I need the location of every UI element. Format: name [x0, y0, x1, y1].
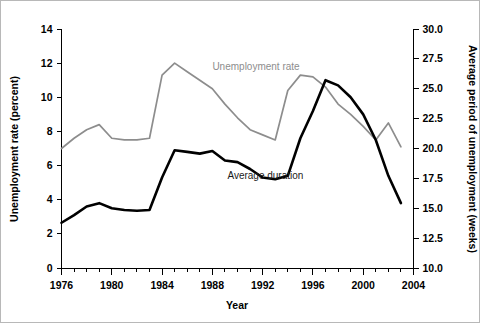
left-tick-label: 4	[47, 193, 53, 205]
left-axis-ticks: 02468101214	[41, 23, 62, 274]
x-tick-label: 1996	[301, 279, 325, 291]
x-axis-title: Year	[226, 299, 248, 311]
left-tick-label: 6	[47, 159, 53, 171]
left-tick-label: 10	[41, 91, 53, 103]
y-axis-left-title: Unemployment rate (percent)	[8, 76, 20, 222]
x-tick-label: 1980	[100, 279, 124, 291]
series-line-unemployment-rate	[62, 63, 401, 148]
right-tick-label: 17.5	[423, 172, 444, 184]
left-tick-label: 8	[47, 125, 53, 137]
x-tick-label: 1976	[50, 279, 74, 291]
left-tick-label: 0	[47, 262, 53, 274]
y-axis-right-title: Average period of unemployment (weeks)	[467, 45, 479, 253]
left-tick-label: 14	[41, 23, 53, 35]
right-tick-label: 22.5	[423, 112, 444, 124]
series-line-average-duration	[62, 80, 401, 223]
right-tick-label: 20.0	[423, 142, 444, 154]
right-tick-label: 25.0	[423, 82, 444, 94]
right-tick-label: 10.0	[423, 262, 444, 274]
line-chart-svg: 02468101214 10.012.515.017.520.022.525.0…	[1, 1, 480, 323]
chart-figure: 02468101214 10.012.515.017.520.022.525.0…	[0, 0, 480, 323]
right-axis-ticks: 10.012.515.017.520.022.525.027.530.0	[414, 23, 444, 274]
left-tick-label: 12	[41, 57, 53, 69]
right-tick-label: 12.5	[423, 232, 444, 244]
x-axis-ticks: 19761980198419881992199620002004	[50, 268, 426, 291]
x-tick-label: 1988	[201, 279, 225, 291]
right-tick-label: 30.0	[423, 23, 444, 35]
series-label-average-duration: Average duration	[227, 170, 303, 181]
left-tick-label: 2	[47, 227, 53, 239]
series-label-unemployment-rate: Unemployment rate	[212, 61, 300, 72]
right-tick-label: 27.5	[423, 52, 444, 64]
x-tick-label: 2004	[402, 279, 426, 291]
x-tick-label: 1984	[150, 279, 174, 291]
right-tick-label: 15.0	[423, 202, 444, 214]
x-tick-label: 1992	[251, 279, 275, 291]
x-tick-label: 2000	[352, 279, 376, 291]
